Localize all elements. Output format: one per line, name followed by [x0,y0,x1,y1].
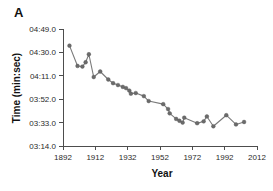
data-point [116,83,120,87]
y-axis-title: Time (min:sec) [11,53,22,123]
y-axis: 03:14.003:33.003:52.004:11.004:30.004:49… [11,25,63,151]
data-point [92,75,96,79]
line-chart: 03:14.003:33.003:52.004:11.004:30.004:49… [0,0,273,191]
data-point [202,119,206,123]
data-point [98,70,102,74]
data-point [181,121,185,125]
data-point [84,60,88,64]
x-tick-label: 2012 [248,153,266,162]
x-axis-tick-labels: 1892191219321952197219922012 [54,153,266,162]
x-axis-title: Year [151,168,172,179]
data-point [211,124,215,128]
y-tick-label: 03:14.0 [29,142,56,151]
y-tick-label: 04:11.0 [30,72,57,81]
data-point [168,111,172,115]
x-tick-label: 1972 [183,153,201,162]
x-axis: 1892191219321952197219922012 Year [54,146,266,179]
data-point [111,81,115,85]
data-point [195,121,199,125]
data-point [76,64,80,68]
y-axis-tick-labels: 03:14.003:33.003:52.004:11.004:30.004:49… [29,25,56,151]
data-point [234,123,238,127]
data-point [142,94,146,98]
data-point [134,91,138,95]
series-markers [68,44,246,128]
x-tick-label: 1992 [216,153,234,162]
y-tick-label: 03:52.0 [29,95,56,104]
y-tick-label: 03:33.0 [29,119,56,128]
plot-area [68,44,246,128]
data-point [124,86,128,90]
data-point [87,52,91,56]
data-point [205,115,209,119]
x-axis-ticks [63,146,257,150]
x-tick-label: 1952 [151,153,169,162]
x-tick-label: 1912 [86,153,104,162]
data-point [129,92,133,96]
data-point [166,107,170,111]
data-point [81,65,85,69]
data-point [182,116,186,120]
y-tick-label: 04:49.0 [29,25,56,34]
series-line-mile-record [69,46,244,127]
data-point [161,102,165,106]
x-tick-label: 1892 [54,153,72,162]
data-point [68,44,72,48]
y-tick-label: 04:30.0 [29,48,56,57]
y-axis-ticks [59,29,63,146]
data-point [242,120,246,124]
data-point [147,99,151,103]
x-tick-label: 1932 [119,153,137,162]
data-point [106,78,110,82]
data-point [224,113,228,117]
figure-panel-a: A 03:14.003:33.003:52.004:11.004:30.004:… [0,0,273,191]
